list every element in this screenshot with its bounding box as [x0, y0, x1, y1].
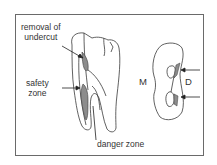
molar-tooth-illustration [72, 33, 120, 132]
safety-label-line2: zone [26, 88, 49, 98]
mesial-label: M [139, 77, 147, 87]
removal-of-undercut-label: removal of undercut [21, 22, 61, 42]
safety-zone-region [81, 84, 88, 120]
safety-zone-label: safety zone [26, 78, 49, 98]
distal-label: D [185, 77, 192, 87]
undercut-region [82, 52, 88, 71]
removal-label-line2: undercut [21, 32, 61, 42]
safety-label-line1: safety [26, 78, 49, 88]
root-cross-section [153, 43, 184, 120]
danger-zone-label: danger zone [97, 139, 144, 149]
removal-label-line1: removal of [21, 22, 61, 32]
